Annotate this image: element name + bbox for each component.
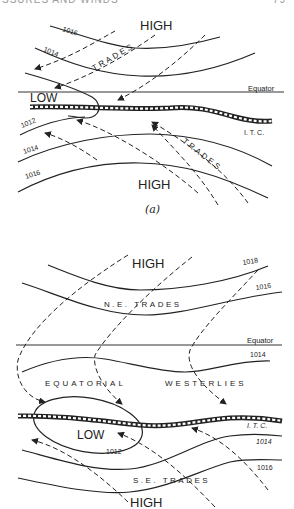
isobar-label-1016-south: 1016 (24, 168, 41, 180)
label-westerlies: WESTERLIES (165, 379, 247, 388)
label-high-north: HIGH (140, 18, 173, 33)
label-equator: Equator (248, 84, 275, 93)
isobar-1014 (22, 358, 270, 372)
trade-wind-arrow (45, 133, 97, 160)
isobar-1014-north (35, 48, 255, 76)
isobar-label-1016-south: 1016 (257, 464, 273, 471)
isobar-label-1012: 1012 (106, 448, 122, 455)
isobar-label-1014: 1014 (250, 351, 266, 358)
isobar-1016-north (22, 283, 282, 315)
label-trades-south: TRADES (181, 136, 224, 172)
diagram-canvas: HIGH HIGH LOW Equator I. T. C. TRADES TR… (0, 0, 294, 509)
label-equator: Equator (247, 336, 274, 345)
label-high-north: HIGH (132, 256, 165, 271)
diagram-a: HIGH HIGH LOW Equator I. T. C. TRADES TR… (18, 18, 284, 216)
isobar-label-1014-south: 1014 (22, 143, 39, 155)
label-itc: I. T. C. (247, 422, 267, 429)
label-low: LOW (77, 428, 105, 442)
label-high-south: HIGH (138, 177, 171, 192)
label-high-south: HIGH (130, 495, 163, 509)
diagram-b: HIGH HIGH LOW Equator I. T. C. N.E. TRAD… (16, 255, 282, 509)
caption-a: (a) (145, 203, 160, 216)
isobar-label-1018: 1018 (242, 256, 259, 266)
label-ne-trades: N.E. TRADES (104, 300, 182, 309)
isobar-label-1016-north: 1016 (255, 282, 272, 291)
label-low: LOW (30, 91, 58, 105)
label-se-trades: S.E. TRADES (133, 476, 210, 485)
isobar-label-1014-north: 1014 (43, 45, 60, 57)
isobar-label-1016-north: 1016 (62, 25, 79, 37)
label-itc: I. T. C. (244, 129, 264, 136)
label-trades-north: TRADES (91, 41, 137, 73)
isobar-1014-south (18, 134, 272, 166)
isobar-label-1014-south: 1014 (256, 438, 272, 445)
isobar-label-1012: 1012 (20, 117, 37, 129)
label-equatorial: EQUATORIAL (45, 379, 126, 388)
